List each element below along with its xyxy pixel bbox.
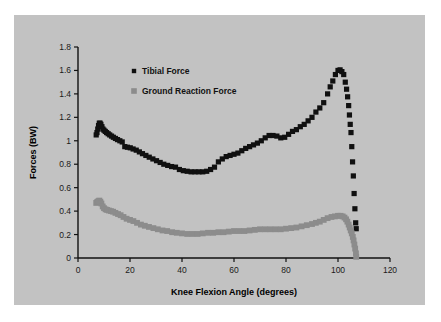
data-point [353,220,358,225]
legend-label: Ground Reaction Force [142,86,237,96]
data-point [174,230,180,236]
data-point [349,144,354,149]
data-point [348,122,353,127]
y-tick-label: 0.8 [59,159,71,169]
data-point [344,87,349,92]
x-tick-label: 20 [125,265,135,275]
data-point [351,173,356,178]
data-point [288,225,294,231]
y-tick-label: 1.2 [59,112,71,122]
y-tick-label: 1.6 [59,65,71,75]
data-point [252,227,258,233]
data-point [242,228,248,234]
y-tick-label: 0 [66,253,71,263]
legend-label: Tibial Force [142,66,190,76]
data-point [345,94,350,99]
data-point [268,226,274,232]
x-tick-label: 120 [383,265,397,275]
x-tick-label: 60 [229,265,239,275]
data-point [350,159,355,164]
data-point [231,228,237,234]
data-point [309,115,314,120]
data-point [257,226,263,232]
y-axis-ticks: 00.20.40.60.811.21.41.61.8 [59,42,78,263]
x-tick-label: 0 [76,265,81,275]
data-point [304,222,310,228]
data-point [346,103,351,108]
data-point [347,112,352,117]
data-point [299,223,305,229]
data-point [352,206,357,211]
y-tick-label: 1 [66,136,71,146]
y-tick-label: 0.4 [59,206,71,216]
data-point [195,231,201,237]
data-point [247,228,253,234]
data-point [328,84,333,89]
x-tick-label: 40 [177,265,187,275]
y-tick-label: 0.6 [59,183,71,193]
data-point [343,80,348,85]
x-axis-ticks: 020406080100120 [76,258,398,275]
data-point [278,226,284,232]
data-point [294,225,300,231]
data-point [330,78,335,83]
data-point [236,228,242,234]
data-point [352,191,357,196]
data-point [212,165,217,170]
data-point [283,226,289,232]
data-point [210,230,216,236]
data-point [321,100,326,105]
y-tick-label: 1.8 [59,42,71,52]
data-point [120,139,125,144]
data-point [205,230,211,236]
series-2 [93,198,359,260]
data-point [273,226,279,232]
data-point [353,254,359,260]
chart-legend: Tibial ForceGround Reaction Force [131,66,237,96]
y-tick-label: 0.2 [59,230,71,240]
data-point [184,231,190,237]
legend-marker [132,69,136,73]
data-point [216,229,222,235]
data-point [325,91,330,96]
data-point [226,229,232,235]
data-point [179,230,185,236]
data-point [200,230,206,236]
y-axis-title: Forces (BW) [28,126,38,179]
data-point [190,231,196,237]
x-tick-label: 80 [281,265,291,275]
data-point [341,72,346,77]
data-point [348,130,353,135]
data-point [164,228,170,234]
data-point [262,226,268,232]
data-point [221,229,227,235]
data-point [317,105,322,110]
x-tick-label: 100 [331,265,345,275]
chart-plot-area: 00.20.40.60.811.21.41.61.8 0204060801001… [14,15,425,305]
chart-figure: 00.20.40.60.811.21.41.61.8 0204060801001… [14,15,425,305]
legend-marker [131,88,137,94]
y-tick-label: 1.4 [59,89,71,99]
x-axis-title: Knee Flexion Angle (degrees) [171,287,297,297]
